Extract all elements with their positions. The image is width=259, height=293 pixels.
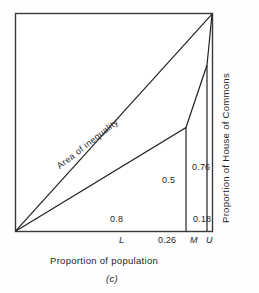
value-label-0-76: 0.76 xyxy=(192,163,210,172)
panel-caption: (c) xyxy=(106,274,118,284)
x-tick-label-L: L xyxy=(119,236,124,245)
x-tick-label-U: U xyxy=(206,236,213,245)
x-tick-label-0-26: 0.26 xyxy=(158,236,176,245)
y-axis-title-text: Proportion of House of Commons xyxy=(221,38,231,223)
value-label-0-5: 0.5 xyxy=(162,176,175,185)
value-label-0-18: 0.18 xyxy=(193,215,211,224)
x-tick-label-M: M xyxy=(190,236,198,245)
value-label-0-8: 0.8 xyxy=(110,215,123,224)
y-axis-title: Proportion of House of Commons xyxy=(221,38,231,223)
x-axis-title: Proportion of population xyxy=(50,256,158,266)
lorenz-curve-figure: Area of inequality 0.8 0.18 0.5 0.76 L 0… xyxy=(0,0,259,293)
